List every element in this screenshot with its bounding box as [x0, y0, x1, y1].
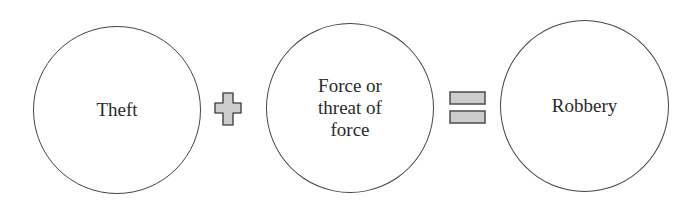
circle-theft: Theft: [33, 26, 201, 194]
label-force-line-1: Force or: [318, 75, 382, 96]
label-force-line-3: force: [330, 119, 369, 140]
circle-force: Force or threat of force: [266, 23, 434, 193]
plus-icon: [213, 91, 243, 127]
label-robbery: Robbery: [552, 95, 617, 117]
equals-icon: [448, 90, 488, 126]
label-theft: Theft: [96, 99, 137, 121]
label-force-line-2: threat of: [318, 97, 382, 118]
circle-robbery: Robbery: [500, 20, 669, 192]
label-force: Force or threat of force: [318, 75, 382, 141]
